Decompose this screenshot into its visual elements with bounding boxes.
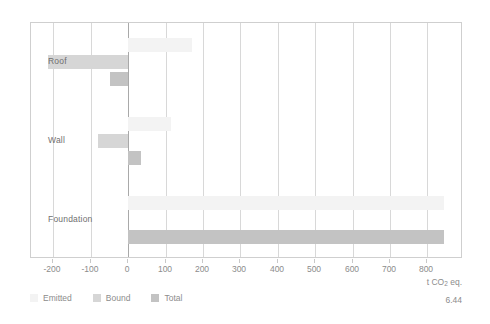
gridline [203,23,204,257]
x-tick [239,259,240,263]
legend-swatch-total-icon [151,294,159,302]
gridline [353,23,354,257]
bar-wall-bound [98,134,128,148]
x-tick-label: 200 [195,264,209,274]
gridline [427,23,428,257]
x-tick-label: 700 [382,264,396,274]
x-tick [127,259,128,263]
gridline [240,23,241,257]
x-tick-label: -100 [81,264,98,274]
x-tick [52,259,53,263]
x-tick-label: 400 [270,264,284,274]
x-axis-unit-label: t CO2 eq. [427,277,462,287]
x-tick [314,259,315,263]
chart-container: Roof Wall Foundation t CO2 eq. 6.44 Emit… [0,0,490,324]
gridline [278,23,279,257]
gridline [166,23,167,257]
bar-wall-total [128,151,141,165]
x-tick [426,259,427,263]
gridline [315,23,316,257]
bar-foundation-emitted [128,196,444,210]
x-tick [389,259,390,263]
x-tick [165,259,166,263]
x-tick-label: 300 [232,264,246,274]
category-label-roof: Roof [48,56,67,66]
legend-swatch-emitted-icon [30,294,38,302]
legend-item-emitted[interactable]: Emitted [30,293,72,303]
bar-foundation-total [128,230,444,244]
legend-label: Emitted [43,293,72,303]
chart-legend: EmittedBoundTotal [30,293,182,303]
x-tick-label: 800 [419,264,433,274]
legend-swatch-bound-icon [93,294,101,302]
figure-number: 6.44 [445,295,462,305]
x-tick-label: -200 [43,264,60,274]
x-tick [352,259,353,263]
plot-area [30,22,462,258]
bar-roof-total [110,72,129,86]
x-tick-label: 600 [345,264,359,274]
gridline [390,23,391,257]
legend-label: Total [164,293,182,303]
x-tick-label: 0 [125,264,130,274]
bar-wall-emitted [128,117,171,131]
unit-suffix: eq. [448,277,462,287]
x-tick [277,259,278,263]
x-tick [202,259,203,263]
category-label-wall: Wall [48,135,65,145]
category-label-foundation: Foundation [48,214,93,224]
x-tick-label: 100 [158,264,172,274]
x-tick-label: 500 [307,264,321,274]
legend-item-bound[interactable]: Bound [93,293,131,303]
x-tick [90,259,91,263]
unit-prefix: t CO [427,277,444,287]
bar-roof-emitted [128,38,192,52]
legend-label: Bound [106,293,131,303]
legend-item-total[interactable]: Total [151,293,182,303]
